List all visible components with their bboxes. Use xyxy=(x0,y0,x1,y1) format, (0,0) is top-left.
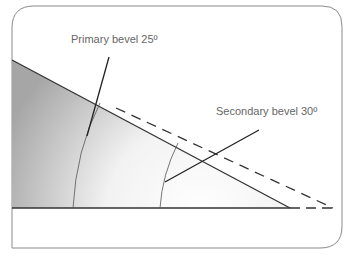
bevel-diagram xyxy=(0,0,357,260)
secondary-bevel-label: Secondary bevel 30º xyxy=(216,105,317,117)
primary-bevel-label: Primary bevel 25º xyxy=(71,33,158,45)
